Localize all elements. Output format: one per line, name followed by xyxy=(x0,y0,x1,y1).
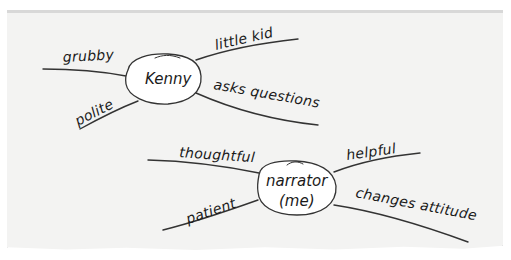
trait-helpful: helpful xyxy=(345,140,397,163)
trait-grubby: grubby xyxy=(62,46,115,65)
trait-little-kid: little kid xyxy=(213,24,275,53)
trait-polite: polite xyxy=(71,96,116,129)
narrator-label-line1: narrator xyxy=(266,172,328,190)
trait-changes-attitude: changes attitude xyxy=(354,184,478,223)
trait-patient: patient xyxy=(183,195,238,227)
kenny-label: Kenny xyxy=(145,70,193,88)
narrator-map: narrator (me) thoughtful patient helpful… xyxy=(148,140,479,242)
kenny-map: Kenny grubby polite little kid asks ques… xyxy=(43,24,321,129)
character-maps: Kenny grubby polite little kid asks ques… xyxy=(0,0,511,260)
branch-grubby xyxy=(43,69,126,76)
narrator-label-line2: (me) xyxy=(279,192,315,210)
